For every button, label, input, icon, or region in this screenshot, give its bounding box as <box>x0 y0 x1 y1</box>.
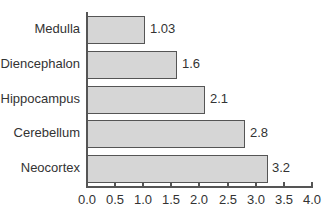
x-tick <box>86 182 88 187</box>
x-tick-label: 1.0 <box>134 192 152 207</box>
x-tick <box>198 182 200 187</box>
x-tick-label: 3.0 <box>247 192 265 207</box>
x-tick <box>142 182 144 187</box>
value-label-cerebellum: 2.8 <box>250 125 268 140</box>
x-tick <box>255 182 257 187</box>
x-tick-label: 3.5 <box>275 192 293 207</box>
value-label-neocortex: 3.2 <box>272 160 290 175</box>
x-tick <box>311 182 313 187</box>
x-tick <box>283 182 285 187</box>
value-label-diencephalon: 1.6 <box>182 56 200 71</box>
category-label-diencephalon: Diencephalon <box>0 56 80 71</box>
x-tick-label: 0.5 <box>106 192 124 207</box>
x-tick-label: 1.5 <box>162 192 180 207</box>
x-tick-label: 4.0 <box>303 192 321 207</box>
x-tick-label: 2.0 <box>190 192 208 207</box>
x-tick <box>227 182 229 187</box>
bar-medulla <box>87 16 145 44</box>
x-tick-label: 0.0 <box>78 192 96 207</box>
category-label-cerebellum: Cerebellum <box>14 125 80 140</box>
horizontal-bar-chart: Medulla 1.03 Diencephalon 1.6 Hippocampu… <box>0 0 330 218</box>
x-tick-label: 2.5 <box>219 192 237 207</box>
x-axis-line <box>86 186 313 188</box>
category-label-hippocampus: Hippocampus <box>1 91 81 106</box>
category-label-neocortex: Neocortex <box>21 160 80 175</box>
bar-cerebellum <box>87 120 245 148</box>
category-label-medulla: Medulla <box>34 21 80 36</box>
x-tick <box>170 182 172 187</box>
bar-diencephalon <box>87 51 177 79</box>
value-label-medulla: 1.03 <box>150 21 175 36</box>
bar-neocortex <box>87 155 268 183</box>
bar-hippocampus <box>87 86 205 114</box>
x-tick <box>114 182 116 187</box>
value-label-hippocampus: 2.1 <box>210 91 228 106</box>
